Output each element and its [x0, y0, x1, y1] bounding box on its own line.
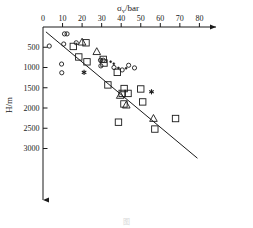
marker-circle-open: [59, 62, 63, 66]
marker-square-open: [140, 99, 146, 105]
trend-line: [46, 32, 198, 158]
x-tick-label: 40: [117, 14, 125, 23]
y-tick-label: 500: [28, 43, 40, 52]
marker-triangle-open: [150, 115, 158, 122]
y-tick-label: 2000: [24, 104, 40, 113]
marker-square-open: [70, 43, 76, 49]
marker-asterisk: [82, 70, 87, 75]
x-tick-label: 0: [41, 14, 45, 23]
marker-circle-open: [127, 63, 131, 67]
marker-circle-open: [47, 44, 51, 48]
x-tick-label: 60: [156, 14, 164, 23]
y-tick-label: 3000: [24, 144, 40, 153]
marker-triangle-open: [116, 91, 124, 98]
x-tick-label: 10: [59, 14, 67, 23]
y-tick-label: 2500: [24, 124, 40, 133]
marker-circle-open: [132, 66, 136, 70]
data-markers: [47, 32, 179, 132]
scatter-plot: 0102030405060708050010001500200025003000…: [0, 0, 253, 228]
marker-square-open: [172, 115, 178, 121]
series-asterisk: [82, 70, 154, 95]
marker-triangle-open: [93, 48, 101, 55]
y-tick-label: 1000: [24, 63, 40, 72]
series-open-square: [70, 40, 179, 133]
x-tick-label: 70: [176, 14, 184, 23]
marker-circle-filled: [113, 63, 115, 65]
x-tick-label: 80: [195, 14, 203, 23]
marker-square-open: [152, 126, 158, 132]
marker-circle-filled: [117, 67, 119, 69]
axes: 0102030405060708050010001500200025003000: [24, 14, 217, 201]
marker-circle-open: [60, 71, 64, 75]
x-axis-title: σv/bar: [117, 3, 139, 14]
figure-caption: 图: [0, 216, 253, 228]
marker-circle-filled: [110, 61, 112, 63]
marker-circle-filled: [125, 67, 127, 69]
regression-line: [46, 32, 198, 158]
x-tick-label: 30: [98, 14, 106, 23]
marker-asterisk: [149, 89, 154, 94]
y-tick-label: 1500: [24, 84, 40, 93]
marker-square-open: [115, 119, 121, 125]
marker-square-open: [138, 86, 144, 92]
marker-circle-open: [62, 42, 66, 46]
marker-square-open: [121, 85, 127, 91]
series-open-circle: [47, 32, 136, 75]
series-open-triangle: [78, 38, 157, 121]
x-tick-label: 20: [78, 14, 86, 23]
x-tick-label: 50: [137, 14, 145, 23]
y-axis-title: H/m: [4, 97, 14, 113]
marker-square-open: [114, 69, 120, 75]
figure-container: 0102030405060708050010001500200025003000…: [0, 0, 253, 228]
